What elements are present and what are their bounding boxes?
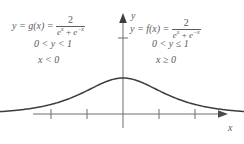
x-axis-arrow-icon xyxy=(218,110,228,118)
plot-canvas xyxy=(0,0,244,144)
math-figure: y = g(x) = 2 ex + e−x 0 < y < 1 x < 0 y … xyxy=(0,0,244,144)
y-axis-arrow-icon xyxy=(119,13,127,23)
sech-curve xyxy=(0,78,244,112)
